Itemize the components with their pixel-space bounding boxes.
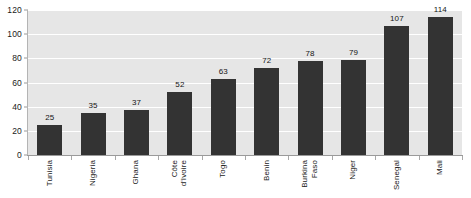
x-axis-category-label-line: Senegal bbox=[393, 160, 401, 190]
x-axis-category-label-line: d'Ivoire bbox=[180, 160, 188, 186]
x-axis-category-label-line: Togo bbox=[219, 160, 227, 178]
x-axis-category-label: Mali bbox=[419, 160, 462, 198]
bar bbox=[254, 68, 279, 155]
x-axis-labels: TunisiaNigeriaGhanaCôted'IvoireTogoBenin… bbox=[28, 160, 462, 198]
x-axis-category-label-line: Niger bbox=[349, 160, 357, 180]
x-axis-category-label: Nigeria bbox=[71, 160, 114, 198]
y-axis-tick-label: 0 bbox=[17, 151, 22, 160]
bar-value-label: 78 bbox=[290, 50, 330, 58]
x-axis-category-label: Ghana bbox=[115, 160, 158, 198]
x-axis-category-label: BurkinaFaso bbox=[288, 160, 331, 198]
x-axis-category-label: Côted'Ivoire bbox=[158, 160, 201, 198]
bar-chart: 120100806040200 2535375263727879107114 T… bbox=[0, 0, 471, 198]
x-axis-category-label-line: Tunisia bbox=[46, 160, 54, 186]
x-axis-category-label: Niger bbox=[332, 160, 375, 198]
bar-value-label: 72 bbox=[247, 57, 287, 65]
y-axis: 120100806040200 bbox=[0, 0, 28, 160]
bar-value-label: 79 bbox=[334, 49, 374, 57]
x-axis-category-label: Togo bbox=[202, 160, 245, 198]
x-axis-category-label-line: Burkina bbox=[301, 160, 309, 188]
x-axis-category-label-line: Benin bbox=[263, 160, 271, 181]
y-axis-tick-label: 20 bbox=[12, 127, 22, 136]
x-axis-category-label-line: Nigeria bbox=[89, 160, 97, 186]
bar-value-label: 25 bbox=[30, 114, 70, 122]
bar-value-label: 107 bbox=[377, 15, 417, 23]
y-axis-tick-label: 80 bbox=[12, 54, 22, 63]
bar-value-label: 63 bbox=[203, 68, 243, 76]
bar bbox=[37, 125, 62, 155]
x-axis-category-label-line: Côte bbox=[171, 160, 179, 177]
x-axis-category-label-line: Mali bbox=[436, 160, 444, 175]
x-axis-category-label-line: Faso bbox=[311, 160, 319, 178]
x-axis-category-label: Benin bbox=[245, 160, 288, 198]
bar bbox=[341, 60, 366, 155]
y-axis-tick-label: 40 bbox=[12, 102, 22, 111]
y-axis-tick-label: 60 bbox=[12, 78, 22, 87]
bar bbox=[384, 26, 409, 155]
bar-value-label: 37 bbox=[117, 99, 157, 107]
bar bbox=[167, 92, 192, 155]
bar bbox=[81, 113, 106, 155]
bar-value-label: 35 bbox=[73, 102, 113, 110]
bar-value-label: 52 bbox=[160, 81, 200, 89]
x-axis-category-label: Senegal bbox=[375, 160, 418, 198]
bar bbox=[124, 110, 149, 155]
x-axis-category-label: Tunisia bbox=[28, 160, 71, 198]
y-axis-tick-label: 100 bbox=[7, 30, 22, 39]
y-axis-tick-label: 120 bbox=[7, 6, 22, 15]
bar bbox=[211, 79, 236, 155]
bar bbox=[298, 61, 323, 155]
bar bbox=[428, 17, 453, 155]
plot-area: 2535375263727879107114 bbox=[28, 10, 462, 155]
bar-value-label: 114 bbox=[420, 6, 460, 14]
x-axis-tick-mark bbox=[462, 156, 463, 160]
x-axis-category-label-line: Ghana bbox=[132, 160, 140, 185]
bar-series: 2535375263727879107114 bbox=[28, 10, 462, 155]
